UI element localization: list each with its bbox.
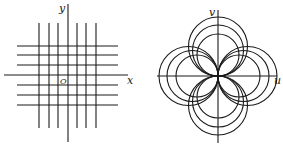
- figure-canvas: y x O v u: [0, 0, 283, 149]
- origin-label: O: [60, 77, 67, 86]
- w-plane-circles-panel: v u: [157, 6, 281, 143]
- v-axis-label: v: [209, 6, 216, 19]
- u-axis-label: u: [274, 74, 281, 87]
- y-axis-label: y: [58, 2, 66, 15]
- z-plane-grid-panel: y x O: [4, 2, 134, 142]
- x-axis-label: x: [127, 74, 134, 87]
